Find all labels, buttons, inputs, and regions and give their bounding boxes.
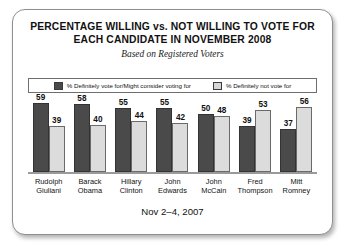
bar-group: 5048: [193, 102, 234, 172]
bar-value-label: 56: [300, 97, 309, 106]
category-axis-labels: RudolphGiulianiBarackObamaHillaryClinton…: [28, 177, 317, 195]
bar-value-label: 44: [135, 111, 144, 120]
bar-definitely-vote-for: [239, 126, 255, 172]
bar-series1-wrap: 39: [239, 102, 255, 172]
chart-card: PERCENTAGE WILLING vs. NOT WILLING TO VO…: [12, 9, 333, 235]
legend-swatch-icon-series1: [54, 82, 63, 90]
bar-group: 5542: [152, 102, 193, 172]
bar-series2-wrap: 40: [90, 102, 106, 172]
bar-value-label: 48: [217, 106, 226, 115]
legend-label-series1: % Definitely vote for/Might consider vot…: [67, 82, 191, 89]
bar-definitely-not-vote-for: [172, 123, 188, 172]
bar-value-label: 37: [284, 119, 293, 128]
bar-definitely-vote-for: [74, 104, 90, 172]
bar-series2-wrap: 48: [214, 102, 230, 172]
bar-group: 5840: [69, 102, 110, 172]
legend-label-series2: % Definitely not vote for: [226, 82, 291, 89]
bar-definitely-vote-for: [33, 103, 49, 172]
chart-legend: % Definitely vote for/Might consider vot…: [28, 78, 317, 93]
bar-definitely-not-vote-for: [296, 107, 312, 172]
bar-definitely-not-vote-for: [255, 110, 271, 172]
bar-definitely-vote-for: [115, 108, 131, 172]
category-label: BarackObama: [69, 177, 110, 195]
chart-title-line-1: PERCENTAGE WILLING vs. NOT WILLING TO VO…: [13, 21, 332, 34]
bar-definitely-not-vote-for: [90, 125, 106, 172]
bar-definitely-not-vote-for: [214, 116, 230, 172]
bar-series1-wrap: 59: [33, 102, 49, 172]
plot-area: 5939584055445542504839533756: [28, 102, 317, 174]
bar-groups: 5939584055445542504839533756: [28, 102, 317, 172]
title-block: PERCENTAGE WILLING vs. NOT WILLING TO VO…: [13, 21, 332, 60]
chart-footer-date: Nov 2–4, 2007: [13, 206, 332, 217]
bar-value-label: 39: [52, 116, 61, 125]
category-label: HillaryClinton: [111, 177, 152, 195]
bar-value-label: 42: [176, 113, 185, 122]
bar-group: 3953: [234, 102, 275, 172]
bar-series1-wrap: 55: [115, 102, 131, 172]
axis-baseline: [28, 172, 317, 174]
bar-value-label: 50: [201, 104, 210, 113]
bar-series2-wrap: 56: [296, 102, 312, 172]
bar-group: 5939: [28, 102, 69, 172]
bar-value-label: 55: [119, 98, 128, 107]
bar-series2-wrap: 42: [172, 102, 188, 172]
category-label: FredThompson: [234, 177, 275, 195]
bar-definitely-not-vote-for: [131, 121, 147, 172]
bar-value-label: 39: [242, 116, 251, 125]
legend-item-definitely-vote-for: % Definitely vote for/Might consider vot…: [54, 82, 191, 90]
chart-title-line-2: EACH CANDIDATE IN NOVEMBER 2008: [13, 34, 332, 47]
bar-definitely-not-vote-for: [49, 126, 65, 172]
bar-series2-wrap: 44: [131, 102, 147, 172]
bar-definitely-vote-for: [280, 129, 296, 172]
bar-value-label: 53: [258, 100, 267, 109]
legend-swatch-icon-series2: [213, 82, 222, 90]
category-label: JohnEdwards: [152, 177, 193, 195]
bar-definitely-vote-for: [156, 108, 172, 172]
bar-series1-wrap: 37: [280, 102, 296, 172]
bar-series2-wrap: 53: [255, 102, 271, 172]
bar-series1-wrap: 55: [156, 102, 172, 172]
category-label: JohnMcCain: [193, 177, 234, 195]
bar-value-label: 40: [93, 115, 102, 124]
chart-subtitle: Based on Registered Voters: [13, 49, 332, 60]
bar-value-label: 59: [36, 93, 45, 102]
category-label: RudolphGiuliani: [28, 177, 69, 195]
category-label: MittRomney: [276, 177, 317, 195]
bar-series2-wrap: 39: [49, 102, 65, 172]
bar-group: 5544: [111, 102, 152, 172]
bar-definitely-vote-for: [198, 114, 214, 172]
bar-group: 3756: [276, 102, 317, 172]
bar-series1-wrap: 58: [74, 102, 90, 172]
bar-value-label: 55: [160, 98, 169, 107]
bar-series1-wrap: 50: [198, 102, 214, 172]
legend-item-definitely-not-vote-for: % Definitely not vote for: [213, 82, 291, 90]
bar-value-label: 58: [77, 94, 86, 103]
